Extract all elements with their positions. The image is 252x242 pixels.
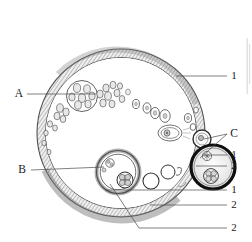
corpus-luteum-c [191,145,235,189]
label-two-c: 2 [231,159,237,171]
label-two-bottom: 2 [231,198,237,210]
label-c: C [230,127,238,139]
label-one-bottom: 1 [231,183,237,195]
label-two-bottom-2: 2 [231,221,237,233]
figure-root: A B C 1 1 2 1 2 2 [0,0,252,242]
ovary-cross-section-diagram: A B C 1 1 2 1 2 2 [0,0,252,242]
label-a: A [15,87,24,99]
label-b: B [18,163,26,175]
label-one-top: 1 [231,69,237,81]
corpus-luteum-b [97,151,140,194]
